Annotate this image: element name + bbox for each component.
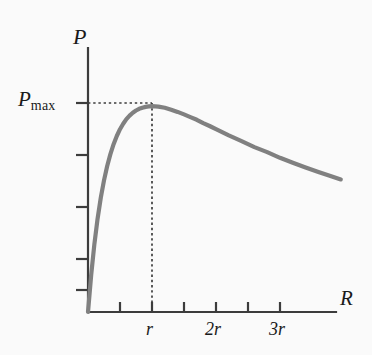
pmax-label: Pmax <box>18 89 56 113</box>
x-axis-label: R <box>340 288 353 309</box>
pmax-label-subscript: max <box>31 98 56 113</box>
power-vs-resistance-figure: P Pmax R r 2r 3r <box>0 0 372 355</box>
y-axis-ticks <box>76 103 88 290</box>
chart-plot-area <box>0 0 372 355</box>
x-tick-label-3r: 3r <box>269 320 285 338</box>
power-curve <box>88 106 341 312</box>
x-tick-label-r: r <box>146 320 153 338</box>
pmax-label-base: P <box>18 87 31 111</box>
x-tick-label-2r: 2r <box>205 320 221 338</box>
y-axis-label: P <box>73 26 86 48</box>
x-axis-ticks <box>120 302 280 312</box>
